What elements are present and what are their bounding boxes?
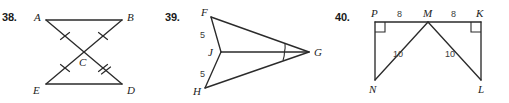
geometry-figure-row: 38. A B C E D [0,0,509,103]
vertex-label-E: E [32,84,40,96]
angle-arc-FGJ [285,44,286,53]
segment-FG [211,17,309,52]
figure-38: 38. A B C E D [0,0,160,103]
vertex-label-L: L [477,83,484,95]
length-label-MK: 8 [451,9,456,19]
figure-40: 40. 8 8 10 10 P M K N L [333,0,509,103]
vertex-label-G: G [314,46,322,58]
vertex-label-K: K [475,7,484,19]
vertex-label-P: P [370,7,378,19]
length-label-PM: 8 [397,9,402,19]
vertex-label-J: J [208,46,214,58]
vertex-label-C: C [79,56,87,68]
length-label-FJ: 5 [200,30,205,40]
right-angle-marker-P [375,22,385,32]
vertex-label-N: N [368,83,377,95]
figure-39: 39. 5 5 F J H G [163,0,328,103]
vertex-label-M: M [422,7,433,19]
figure-39-drawing: 5 5 F J H G [163,0,328,103]
figure-40-drawing: 8 8 10 10 P M K N L [333,0,509,103]
right-angle-marker-K [471,22,481,32]
vertex-label-A: A [33,11,41,23]
length-label-MN: 10 [393,49,403,59]
vertex-label-H: H [192,85,202,97]
vertex-label-B: B [127,11,134,23]
angle-arc-JGH [283,52,285,61]
length-label-JH: 5 [200,69,205,79]
length-label-ML: 10 [445,49,455,59]
segment-HG [205,52,309,88]
vertex-label-F: F [200,6,208,18]
vertex-label-D: D [126,84,135,96]
figure-38-drawing: A B C E D [0,0,160,103]
